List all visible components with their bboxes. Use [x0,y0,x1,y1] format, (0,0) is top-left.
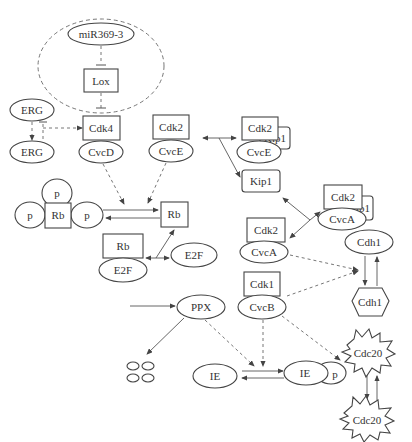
complex-cdk2-cyce[interactable]: Cdk2 CvcE [149,115,193,162]
node-label: Cdk1 [250,278,274,290]
complex-cdk2-cyca-kip1[interactable]: Kip1 Cdk2 CvcA [318,185,373,230]
complex-rb-e2f[interactable]: Rb E2F [99,234,147,282]
node-label: ERG [21,104,43,116]
edge-erg-erg [32,122,82,140]
node-label: E2F [185,249,203,261]
complex-cdk4-cycd[interactable]: Cdk4 CvcD [79,116,123,163]
node-cdh1-inactive[interactable]: Cdh1 [352,288,389,316]
degradation-products-icon [127,362,154,382]
edge-cdc20-cdc20 [367,375,377,400]
node-label: PPX [191,301,211,313]
node-erg-bottom[interactable]: ERG [10,141,54,163]
node-label: IE [300,367,311,379]
node-label: Cdk2 [254,224,278,236]
complex-cdk2-cyce-kip1[interactable]: Kip1 Cdk2 CvcE [237,117,290,163]
node-label: Rb [52,209,65,221]
node-label: CvcB [249,301,274,313]
edge-rbe2f-e2f [146,230,174,258]
node-label: p [84,209,90,221]
node-label: CvcA [251,246,277,258]
node-label: Cdc20 [353,414,382,426]
node-label: Lox [92,75,110,87]
edge-ie-iep [242,371,284,378]
node-label: Cdk4 [89,122,113,134]
node-cdh1-active[interactable]: Cdh1 [345,230,393,254]
node-label: Cdh1 [358,296,382,308]
edge-lox-inhibits-cdk4 [96,93,106,108]
edge-ppx-degradation [147,318,184,354]
edge-kip1-cyca [283,198,320,238]
node-lox[interactable]: Lox [84,69,118,92]
node-label: Cdh1 [357,236,381,248]
edge-activation-ie [205,316,340,366]
complex-cdk1-cycb[interactable]: Cdk1 CvcB [238,272,286,319]
node-erg-top[interactable]: ERG [10,99,54,121]
node-cdc20-inactive[interactable]: Cdc20 [340,396,394,442]
node-label: p [27,209,33,221]
node-label: CvcE [159,145,184,157]
network-diagram: miR369-3 Lox ERG ERG Cdk4 CvcD Cdk [0,0,412,442]
node-label: CvcA [329,213,355,225]
node-ie[interactable]: IE [193,364,237,388]
node-label: Kip1 [250,175,272,187]
node-label: CvcD [88,146,114,158]
node-label: Cdk2 [331,191,355,203]
node-label: Cdc20 [354,347,383,359]
node-e2f[interactable]: E2F [171,243,217,267]
node-kip1[interactable]: Kip1 [242,170,280,192]
node-label: ERG [21,146,43,158]
node-label: E2F [114,264,132,276]
node-cdc20-active[interactable]: Cdc20 [342,329,395,377]
edge-mir-inhibits-lox [96,46,106,65]
node-label: IE [210,370,221,382]
node-label: miR369-3 [79,28,124,40]
complex-phospho-rb[interactable]: p p p Rb [15,179,103,228]
edge-prb-rb [103,163,166,218]
node-label: Rb [168,208,181,220]
node-mir369-3[interactable]: miR369-3 [68,23,134,45]
node-ppx[interactable]: PPX [177,295,225,319]
node-rb[interactable]: Rb [161,202,188,227]
node-label: Cdk2 [248,122,272,134]
node-label: p [54,187,60,199]
node-label: CvcE [247,146,272,158]
complex-cdk2-cyca[interactable]: Cdk2 CvcA [240,218,288,263]
edge-cdk2-cyce-kip1 [203,138,240,177]
node-label: p [332,368,338,380]
node-label: Rb [117,240,130,252]
node-label: Cdk2 [159,121,183,133]
complex-ie-phospho[interactable]: p IE [284,361,346,385]
